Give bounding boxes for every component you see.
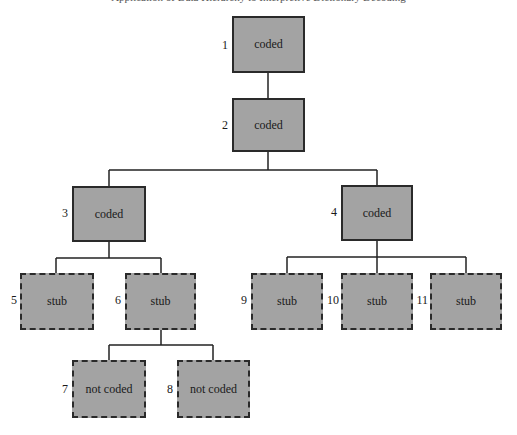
node-number-7: 7 (48, 382, 68, 397)
node-label: stub (367, 294, 387, 309)
node-label: coded (95, 207, 124, 222)
node-label: stub (47, 294, 67, 309)
node-label: not coded (190, 382, 237, 397)
node-number-5: 5 (0, 293, 17, 308)
node-number-9: 9 (227, 293, 247, 308)
node-number-11: 11 (408, 293, 428, 308)
node-1-coded: coded (232, 16, 305, 73)
node-11-stub: stub (430, 273, 502, 330)
node-7-not-coded: not coded (72, 360, 146, 418)
node-number-3: 3 (48, 206, 68, 221)
node-6-stub: stub (125, 273, 196, 330)
node-label: not coded (86, 382, 133, 397)
node-label: coded (254, 118, 283, 133)
node-3-coded: coded (72, 186, 146, 242)
node-2-coded: coded (232, 98, 305, 152)
node-number-10: 10 (319, 293, 339, 308)
node-number-6: 6 (101, 293, 121, 308)
node-number-2: 2 (208, 118, 228, 133)
node-label: stub (456, 294, 476, 309)
node-9-stub: stub (251, 273, 323, 330)
node-number-4: 4 (317, 205, 337, 220)
node-number-1: 1 (208, 38, 228, 53)
node-label: stub (150, 294, 170, 309)
node-label: stub (277, 294, 297, 309)
node-8-not-coded: not coded (177, 360, 250, 418)
node-label: coded (254, 37, 283, 52)
node-number-8: 8 (153, 382, 173, 397)
node-10-stub: stub (341, 273, 413, 330)
node-label: coded (363, 206, 392, 221)
node-5-stub: stub (20, 273, 94, 330)
node-4-coded: coded (341, 185, 413, 241)
